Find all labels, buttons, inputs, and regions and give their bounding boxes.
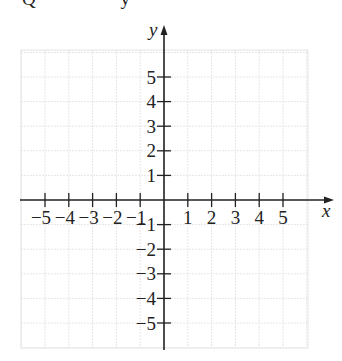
x-tick-label: −3 bbox=[78, 207, 98, 228]
y-axis-label: y bbox=[147, 19, 158, 40]
x-tick-label: 4 bbox=[254, 207, 264, 228]
y-tick-label: 1 bbox=[147, 165, 157, 186]
tick-labels: xy−5−4−3−2−11234554321−1−2−3−4−5 bbox=[31, 19, 331, 334]
x-tick-label: 1 bbox=[183, 207, 193, 228]
axes bbox=[20, 25, 334, 350]
x-tick-label: −4 bbox=[55, 207, 76, 228]
x-tick-label: 5 bbox=[278, 207, 288, 228]
y-tick-label: −4 bbox=[136, 288, 157, 309]
x-axis-label: x bbox=[321, 200, 331, 221]
y-tick-label: 2 bbox=[147, 140, 157, 161]
x-tick-label: −2 bbox=[102, 207, 122, 228]
y-tick-label: −5 bbox=[136, 313, 156, 334]
x-tick-label: 3 bbox=[231, 207, 241, 228]
y-tick-label: 3 bbox=[147, 116, 157, 137]
x-tick-label: 2 bbox=[207, 207, 217, 228]
y-tick-label: −1 bbox=[136, 214, 156, 235]
y-axis-arrow-icon bbox=[161, 25, 168, 35]
y-tick-label: 5 bbox=[147, 67, 157, 88]
x-tick-label: −5 bbox=[31, 207, 51, 228]
coordinate-plane: xy−5−4−3−2−11234554321−1−2−3−4−5 bbox=[0, 0, 342, 361]
y-tick-label: 4 bbox=[147, 91, 157, 112]
y-tick-label: −3 bbox=[136, 263, 156, 284]
y-tick-label: −2 bbox=[136, 239, 156, 260]
